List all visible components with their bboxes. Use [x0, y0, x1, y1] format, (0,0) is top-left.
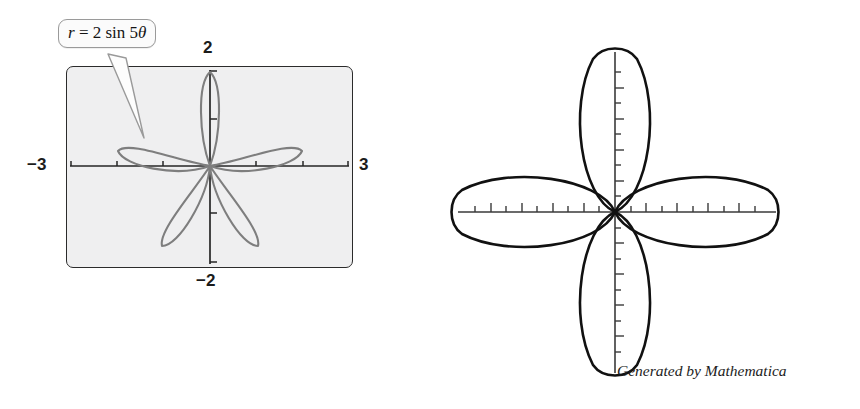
polar-rose-figure-pair: see the graph of r = 2 sin 5 5θ was prod…	[0, 0, 860, 409]
left-y-min-label: −2	[196, 271, 215, 291]
left-x-max-label: 3	[359, 155, 368, 175]
right-polar-rose-plot	[430, 0, 860, 409]
left-figure-panel: see the graph of r = 2 sin 5 5θ was prod…	[0, 0, 430, 409]
left-callout-theta: θ	[138, 23, 146, 42]
left-polar-rose-plot	[66, 66, 353, 268]
left-equation-callout: r = 2 sin 5θ	[58, 19, 156, 48]
right-figure-panel: −0.4 −0.2 0.2 0.4 0.2 0.4 0 π 2 r = 0.5 …	[430, 0, 860, 409]
left-y-max-label: 2	[203, 38, 212, 58]
left-callout-variable: r	[68, 23, 75, 42]
mathematica-caption: Generated by Mathematica	[617, 362, 787, 380]
left-x-min-label: −3	[27, 155, 46, 175]
left-callout-expression: = 2 sin 5	[79, 23, 138, 42]
